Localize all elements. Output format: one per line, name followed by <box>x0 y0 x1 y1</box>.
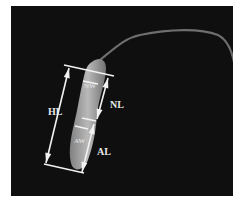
sperm-figure: HL NL AL NW AW <box>11 6 233 196</box>
nl-label: NL <box>110 99 124 110</box>
al-label: AL <box>97 146 111 157</box>
hl-label: HL <box>48 106 63 117</box>
sperm-tail <box>100 30 233 62</box>
nw-label: NW <box>84 82 96 90</box>
micrograph: HL NL AL NW AW <box>11 6 233 196</box>
aw-label: AW <box>74 137 85 145</box>
